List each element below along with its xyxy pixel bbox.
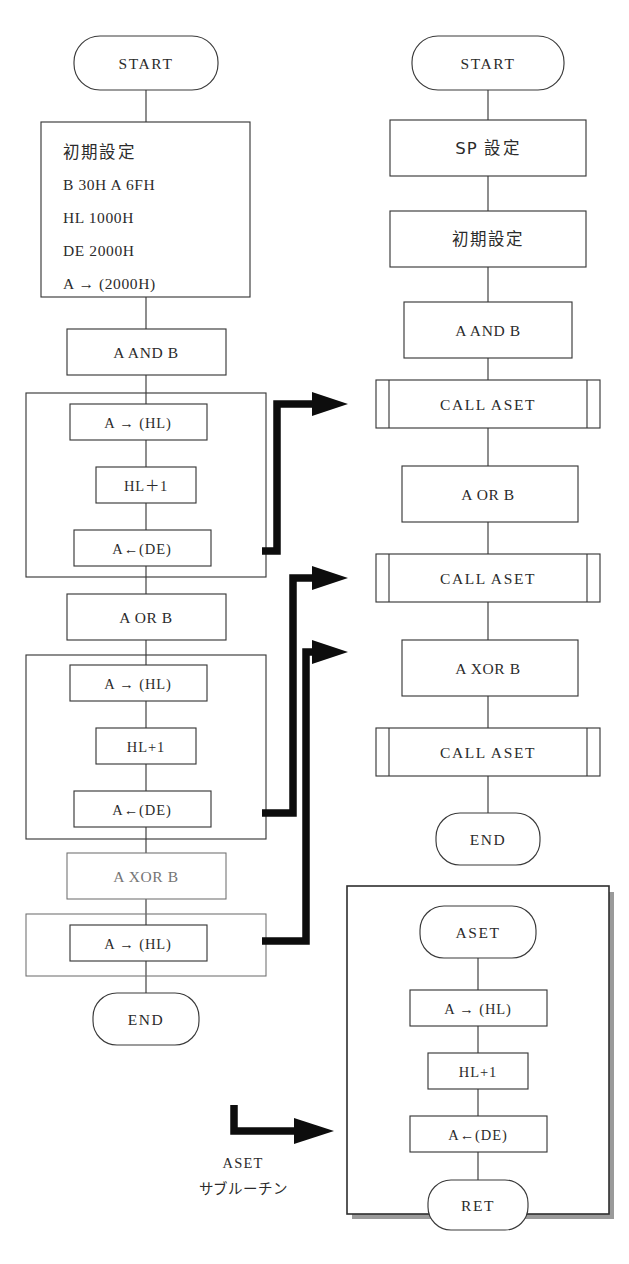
right-or-label: A OR B (461, 486, 515, 503)
left-or-label: A OR B (119, 609, 173, 626)
left-g2-inc-label: HL+1 (127, 739, 165, 755)
legend-line-1: ASET (222, 1155, 263, 1171)
left-and-label: A AND B (113, 344, 178, 361)
right-init-label: 初期設定 (452, 230, 525, 249)
left-init-line-5: A → (2000H) (63, 275, 156, 293)
flowchart-canvas: START 初期設定 B 30H A 6FH HL 1000H DE 2000H… (0, 0, 629, 1264)
left-g1-inc-label: HL＋1 (124, 478, 168, 494)
right-flow-group: START SP 設定 初期設定 A AND B CALL ASET A OR … (376, 36, 600, 865)
thick-connector-3 (262, 640, 348, 941)
left-init-line-2: B 30H A 6FH (63, 176, 155, 193)
subroutine-store-label: A → (HL) (444, 1001, 512, 1018)
legend-arrow (234, 1105, 334, 1144)
legend-group: ASET サブルーチン (199, 1155, 288, 1197)
right-call-box-2: CALL ASET (376, 554, 600, 602)
left-g1-store-label: A → (HL) (104, 415, 172, 432)
flowchart-figure: START 初期設定 B 30H A 6FH HL 1000H DE 2000H… (0, 0, 629, 1264)
subroutine-entry-label: ASET (455, 924, 500, 941)
subroutine-inc-label: HL+1 (459, 1064, 497, 1080)
right-call-box-1: CALL ASET (376, 380, 600, 428)
legend-line-2: サブルーチン (199, 1180, 288, 1197)
subroutine-load-label: A←(DE) (448, 1127, 507, 1144)
right-call-1-label: CALL ASET (440, 396, 536, 413)
subroutine-ret-label: RET (461, 1197, 495, 1214)
left-init-line-4: DE 2000H (63, 242, 135, 259)
left-init-line-1: 初期設定 (63, 143, 136, 162)
left-g2-store-label: A → (HL) (104, 676, 172, 693)
subroutine-panel-group: ASET A → (HL) HL+1 A←(DE) RET (347, 886, 614, 1230)
left-g3-store-label: A → (HL) (104, 936, 172, 953)
right-call-3-label: CALL ASET (440, 744, 536, 761)
left-g1-load-label: A←(DE) (112, 541, 171, 558)
right-call-2-label: CALL ASET (440, 570, 536, 587)
right-and-label: A AND B (455, 322, 520, 339)
left-start-label: START (119, 55, 174, 72)
left-g2-load-label: A←(DE) (112, 802, 171, 819)
right-sp-label: SP 設定 (455, 139, 521, 158)
right-xor-label: A XOR B (455, 660, 520, 677)
left-flow-group: START 初期設定 B 30H A 6FH HL 1000H DE 2000H… (26, 36, 266, 1045)
cross-connectors (234, 392, 348, 1144)
left-init-line-3: HL 1000H (63, 209, 134, 226)
left-end-label: END (128, 1011, 165, 1028)
right-call-box-3: CALL ASET (376, 728, 600, 776)
thick-connector-1 (262, 392, 348, 551)
left-xor-label: A XOR B (113, 868, 178, 885)
right-end-label: END (470, 831, 507, 848)
right-start-label: START (461, 55, 516, 72)
